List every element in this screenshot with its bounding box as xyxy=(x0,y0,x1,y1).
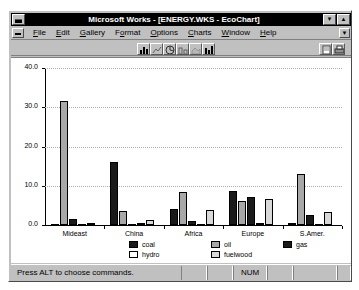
menu-bar: File Edit Gallery Format Options Charts … xyxy=(11,27,351,40)
y-gridline xyxy=(45,107,342,108)
x-axis-category-label: Europe xyxy=(223,230,282,237)
y-axis-tick xyxy=(42,107,45,108)
print-button[interactable] xyxy=(332,43,345,55)
minimize-button[interactable]: ▼ xyxy=(323,14,336,25)
chart-bar[interactable] xyxy=(206,210,214,225)
page-preview-button[interactable] xyxy=(319,43,332,55)
chart-bar[interactable] xyxy=(229,191,237,225)
chart-bar[interactable] xyxy=(110,162,118,225)
chart-bar[interactable] xyxy=(170,209,178,225)
y-axis-tick xyxy=(42,68,45,69)
bar-chart-button[interactable] xyxy=(137,43,150,55)
menu-item-window-label: indow xyxy=(229,28,250,37)
window-controls: ▼ ▲ xyxy=(323,14,350,25)
legend-swatch xyxy=(129,241,138,248)
y-axis-tick-label: 10.0 xyxy=(16,181,38,188)
y-gridline xyxy=(45,147,342,148)
chart-bar[interactable] xyxy=(265,199,273,225)
legend-label: oil xyxy=(224,241,231,248)
x-axis-category-label: China xyxy=(104,230,163,237)
chart-canvas: 0.010.020.030.040.0MideastChinaAfricaEur… xyxy=(11,57,351,263)
x-axis-category-label: Africa xyxy=(164,230,223,237)
y-axis-tick-label: 20.0 xyxy=(16,142,38,149)
legend-swatch xyxy=(283,241,292,248)
x-axis-tick xyxy=(104,226,105,229)
toolbar xyxy=(11,41,351,56)
chart-bar[interactable] xyxy=(188,221,196,225)
chart-bar[interactable] xyxy=(69,219,77,225)
menu-item-help[interactable]: Help xyxy=(255,27,281,39)
maximize-icon: ▲ xyxy=(338,15,349,24)
chart-bar[interactable] xyxy=(128,224,136,226)
toolbar-chart-type-group xyxy=(137,43,215,55)
status-num-indicator: NUM xyxy=(233,266,267,280)
menu-item-file-label: ile xyxy=(38,28,46,37)
menu-item-options[interactable]: Options xyxy=(145,27,183,39)
menu-item-gallery[interactable]: Gallery xyxy=(75,27,110,39)
minimize-icon: ▼ xyxy=(324,15,335,24)
chart-bar[interactable] xyxy=(315,224,323,226)
y-axis-tick xyxy=(42,225,45,226)
status-bar: Press ALT to choose commands. NUM xyxy=(11,264,351,280)
chart-bar[interactable] xyxy=(87,223,95,225)
combo-chart-button[interactable] xyxy=(202,43,215,55)
document-restore-button[interactable]: ▼ xyxy=(339,28,350,38)
y-axis-tick-label: 40.0 xyxy=(16,63,38,70)
menu-item-format-label: rmat xyxy=(124,28,140,37)
menu-item-charts[interactable]: Charts xyxy=(183,27,217,39)
menu-item-format[interactable]: Format xyxy=(110,27,145,39)
status-cell-1 xyxy=(181,266,207,280)
y-axis-tick-label: 30.0 xyxy=(16,102,38,109)
x-axis-tick xyxy=(342,226,343,229)
area-chart-button[interactable] xyxy=(189,43,202,55)
application-window: Microsoft Works - [ENERGY.WKS - EcoChart… xyxy=(8,10,352,282)
chart-bar[interactable] xyxy=(238,201,246,225)
x-axis-category-label: S.Amer. xyxy=(283,230,342,237)
status-cell-3 xyxy=(267,266,293,280)
legend-entry: fuelwood xyxy=(211,251,252,258)
chart-legend: coaloilgashydrofuelwood xyxy=(11,240,351,262)
menu-item-file[interactable]: File xyxy=(28,27,51,39)
document-system-menu-icon[interactable] xyxy=(12,28,24,38)
maximize-button[interactable]: ▲ xyxy=(337,14,350,25)
status-cell-2 xyxy=(207,266,233,280)
menu-item-gallery-label: allery xyxy=(86,28,105,37)
window-title: Microsoft Works - [ENERGY.WKS - EcoChart… xyxy=(25,15,323,24)
stacked-bar-chart-button[interactable] xyxy=(176,43,189,55)
menu-item-window[interactable]: Window xyxy=(217,27,255,39)
chart-bar[interactable] xyxy=(297,174,305,225)
legend-label: hydro xyxy=(142,251,160,258)
line-chart-button[interactable] xyxy=(150,43,163,55)
chart-bar[interactable] xyxy=(119,211,127,225)
x-axis-tick xyxy=(164,226,165,229)
legend-swatch xyxy=(129,251,138,258)
chart-bar[interactable] xyxy=(288,223,296,225)
chart-bar[interactable] xyxy=(324,212,332,225)
chart-bar[interactable] xyxy=(60,101,68,225)
chart-bar[interactable] xyxy=(306,215,314,225)
menu-item-help-label: elp xyxy=(266,28,277,37)
status-cell-5 xyxy=(337,266,351,280)
x-axis-tick xyxy=(283,226,284,229)
y-axis-tick-label: 0.0 xyxy=(16,220,38,227)
pie-chart-button[interactable] xyxy=(163,43,176,55)
y-gridline xyxy=(45,68,342,69)
chart-bar[interactable] xyxy=(78,224,86,226)
menu-item-edit[interactable]: Edit xyxy=(51,27,75,39)
chart-bar[interactable] xyxy=(137,223,145,225)
title-bar: Microsoft Works - [ENERGY.WKS - EcoChart… xyxy=(11,13,351,26)
system-menu-icon[interactable] xyxy=(12,14,25,25)
legend-label: coal xyxy=(142,241,155,248)
chart-bar[interactable] xyxy=(247,197,255,225)
legend-swatch xyxy=(211,241,220,248)
chart-bar[interactable] xyxy=(179,192,187,225)
chart-bar[interactable] xyxy=(51,224,59,226)
chart-bar[interactable] xyxy=(197,224,205,226)
chart-bar[interactable] xyxy=(146,220,154,225)
legend-entry: coal xyxy=(129,241,155,248)
legend-entry: oil xyxy=(211,241,231,248)
x-axis-tick xyxy=(223,226,224,229)
chart-plot-area: 0.010.020.030.040.0MideastChinaAfricaEur… xyxy=(11,58,351,263)
x-axis-category-label: Mideast xyxy=(45,230,104,237)
chart-bar[interactable] xyxy=(256,223,264,225)
